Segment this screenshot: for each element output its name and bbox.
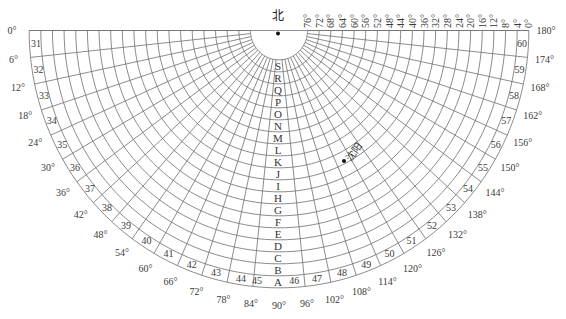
altitude-label: 72° bbox=[314, 14, 325, 28]
label-layer: 76°72°68°64°60°56°52°48°44°40°36°32°28°2… bbox=[8, 14, 556, 311]
altitude-label: 12° bbox=[488, 14, 499, 28]
sector-number: 49 bbox=[361, 259, 371, 270]
azimuth-label: 120° bbox=[403, 263, 422, 274]
azimuth-label: 72° bbox=[190, 286, 204, 297]
sector-number: 59 bbox=[514, 64, 524, 75]
sector-number: 52 bbox=[427, 220, 437, 231]
azimuth-label: 90° bbox=[272, 300, 286, 311]
altitude-label: 16° bbox=[477, 14, 488, 28]
azimuth-label: 108° bbox=[352, 286, 371, 297]
azimuth-label: 156° bbox=[513, 137, 532, 148]
band-letter: I bbox=[276, 180, 280, 192]
altitude-label: 20° bbox=[465, 14, 476, 28]
sector-number: 45 bbox=[252, 275, 262, 286]
city-marker: 沈阳 bbox=[342, 140, 364, 163]
band-letter: M bbox=[273, 132, 283, 144]
band-letter: S bbox=[275, 60, 281, 72]
azimuth-label: 78° bbox=[217, 294, 231, 305]
azimuth-line bbox=[51, 42, 253, 135]
azimuth-label: 24° bbox=[28, 137, 42, 148]
band-letter: F bbox=[275, 216, 281, 228]
azimuth-label: 138° bbox=[468, 209, 487, 220]
band-letter: H bbox=[274, 192, 282, 204]
azimuth-label: 96° bbox=[300, 298, 314, 309]
city-label: 沈阳 bbox=[343, 140, 364, 163]
altitude-label: 52° bbox=[372, 14, 383, 28]
sector-number: 48 bbox=[337, 267, 347, 278]
band-letter: C bbox=[274, 252, 281, 264]
azimuth-label: 114° bbox=[378, 276, 397, 287]
sector-number: 56 bbox=[491, 139, 501, 150]
azimuth-label: 66° bbox=[164, 276, 178, 287]
azimuth-line bbox=[291, 57, 381, 265]
azimuth-label: 30° bbox=[41, 162, 55, 173]
azimuth-label: 162° bbox=[523, 110, 542, 121]
band-letter: Q bbox=[274, 84, 282, 96]
band-letter: N bbox=[274, 120, 282, 132]
sector-number: 50 bbox=[385, 248, 395, 259]
sector-number: 36 bbox=[70, 162, 80, 173]
center-dot-icon bbox=[276, 32, 280, 36]
sector-number: 44 bbox=[236, 273, 246, 284]
band-letter: A bbox=[274, 276, 282, 288]
altitude-label: 48° bbox=[384, 14, 395, 28]
sector-number: 40 bbox=[142, 235, 152, 246]
sector-number: 32 bbox=[34, 64, 44, 75]
sector-number: 42 bbox=[187, 259, 197, 270]
altitude-label: 40° bbox=[407, 14, 418, 28]
sector-number: 43 bbox=[211, 267, 221, 278]
band-letter: L bbox=[275, 144, 282, 156]
azimuth-label: 36° bbox=[56, 187, 70, 198]
azimuth-label: 180° bbox=[536, 25, 555, 36]
sector-number: 33 bbox=[39, 90, 49, 101]
band-letter: B bbox=[274, 264, 281, 276]
azimuth-label: 168° bbox=[531, 82, 550, 93]
altitude-label: 0° bbox=[523, 19, 534, 28]
polar-sun-diagram: 76°72°68°64°60°56°52°48°44°40°36°32°28°2… bbox=[0, 0, 566, 319]
azimuth-label: 84° bbox=[244, 298, 258, 309]
azimuth-label: 42° bbox=[74, 209, 88, 220]
azimuth-label: 144° bbox=[485, 187, 504, 198]
band-letter: R bbox=[274, 72, 282, 84]
altitude-label: 60° bbox=[349, 14, 360, 28]
sector-number: 58 bbox=[509, 90, 519, 101]
azimuth-label: 6° bbox=[9, 54, 18, 65]
azimuth-label: 18° bbox=[18, 110, 32, 121]
altitude-label: 24° bbox=[454, 14, 465, 28]
sector-number: 31 bbox=[31, 38, 41, 49]
band-letter: J bbox=[276, 168, 281, 180]
azimuth-label: 0° bbox=[8, 25, 17, 36]
azimuth-line bbox=[305, 42, 507, 135]
north-label: 北 bbox=[272, 9, 284, 23]
sector-number: 47 bbox=[312, 273, 322, 284]
altitude-label: 8° bbox=[500, 19, 511, 28]
azimuth-label: 54° bbox=[115, 247, 129, 258]
altitude-label: 4° bbox=[512, 19, 523, 28]
altitude-label: 56° bbox=[360, 14, 371, 28]
sector-number: 60 bbox=[517, 38, 527, 49]
sector-number: 41 bbox=[164, 248, 174, 259]
altitude-label: 44° bbox=[395, 14, 406, 28]
sector-number: 38 bbox=[102, 202, 112, 213]
altitude-label: 76° bbox=[302, 14, 313, 28]
altitude-label: 64° bbox=[337, 14, 348, 28]
azimuth-label: 132° bbox=[448, 229, 467, 240]
azimuth-label: 150° bbox=[501, 162, 520, 173]
sector-number: 51 bbox=[407, 235, 417, 246]
azimuth-label: 48° bbox=[93, 229, 107, 240]
altitude-label: 68° bbox=[325, 14, 336, 28]
altitude-label: 28° bbox=[442, 14, 453, 28]
azimuth-label: 60° bbox=[139, 263, 153, 274]
azimuth-label: 174° bbox=[535, 54, 554, 65]
band-letter: P bbox=[275, 96, 281, 108]
band-letter: E bbox=[275, 228, 282, 240]
azimuth-label: 12° bbox=[11, 82, 25, 93]
altitude-label: 36° bbox=[419, 14, 430, 28]
sector-number: 46 bbox=[289, 275, 299, 286]
band-letter: G bbox=[274, 204, 282, 216]
sector-number: 57 bbox=[501, 115, 511, 126]
azimuth-label: 102° bbox=[325, 294, 344, 305]
band-letter: D bbox=[274, 240, 282, 252]
city-dot-icon bbox=[342, 159, 346, 163]
altitude-label: 32° bbox=[430, 14, 441, 28]
